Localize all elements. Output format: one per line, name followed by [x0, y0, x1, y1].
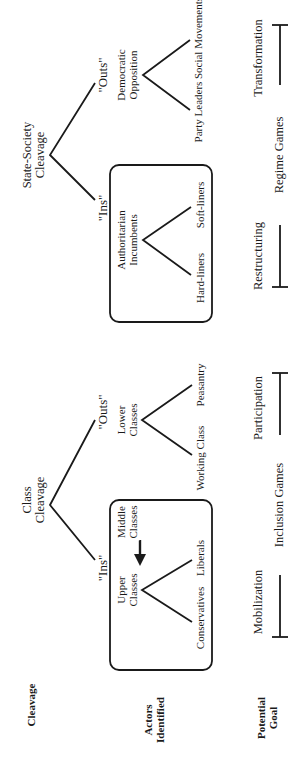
hard-liners-label: Hard-liners [195, 253, 207, 303]
row-label-actors: Actors Identified [143, 697, 166, 743]
class-cleavage-branch [50, 420, 95, 560]
state-ins-label: "Ins" [96, 195, 110, 222]
row-label-cleavage: Cleavage [26, 684, 38, 727]
authoritarian-incumbents-line1: Authoritarian [116, 210, 128, 269]
class-ins-label: "Ins" [96, 555, 110, 582]
transformation-label: Transformation [252, 19, 265, 96]
soft-liners-label: Soft-liners [195, 182, 207, 228]
upper-classes-line2: Classes [128, 574, 140, 607]
middle-classes-line2: Classes [128, 506, 140, 539]
democratic-opposition-line2: Opposition [128, 49, 140, 100]
party-leaders-label: Party Leaders [193, 82, 205, 143]
lower-classes-line2: Classes [128, 404, 140, 437]
mobilization-label: Mobilization [252, 570, 265, 635]
democratic-opposition-line1: Democratic [116, 49, 128, 100]
middle-classes-line1: Middle [116, 506, 128, 539]
peasantry-label: Peasantry [195, 364, 207, 407]
upper-classes-label: Upper Classes [116, 574, 139, 607]
arrow-icon [134, 540, 146, 566]
liberals-label: Liberals [195, 540, 207, 576]
restructuring-label: Restructuring [252, 222, 265, 290]
social-movements-label: Social Movements [193, 0, 205, 79]
state-cleavage-root-line2: Cleavage [34, 122, 47, 189]
participation-label: Participation [252, 376, 265, 440]
row-label-goal-line2: Goal [268, 697, 280, 739]
authoritarian-branch [143, 207, 191, 275]
state-cleavage-root: State-Society Cleavage [21, 122, 47, 189]
upper-classes-line1: Upper [116, 574, 128, 607]
class-cleavage-root-line2: Cleavage [34, 477, 47, 524]
lower-classes-branch [142, 385, 192, 455]
state-cleavage-branch [50, 83, 95, 200]
row-label-actors-line1: Actors [143, 697, 155, 743]
lower-classes-label: Lower Classes [116, 404, 139, 437]
state-outs-label: "Outs" [96, 57, 110, 92]
middle-classes-label: Middle Classes [116, 504, 139, 541]
cleavage-diagram: Cleavage Actors Identified Potential Goa… [0, 0, 296, 780]
democratic-opposition-label: Democratic Opposition [116, 49, 139, 100]
row-label-goal-line1: Potential [256, 697, 268, 739]
conservatives-label: Conservatives [195, 587, 207, 649]
regime-games-label: Regime Games [273, 117, 286, 194]
class-cleavage-root: Class Cleavage [21, 477, 47, 524]
class-outs-label: "Outs" [96, 394, 110, 429]
working-class-label: Working Class [195, 426, 207, 491]
inclusion-games-label: Inclusion Games [273, 463, 286, 547]
opposition-branch [143, 40, 190, 110]
authoritarian-incumbents-line2: Incumbents [128, 210, 140, 269]
row-label-goal: Potential Goal [256, 697, 279, 739]
row-label-actors-line2: Identified [155, 697, 167, 743]
lower-classes-line1: Lower [116, 404, 128, 437]
authoritarian-incumbents-label: Authoritarian Incumbents [116, 210, 139, 269]
upper-classes-branch [142, 560, 192, 622]
